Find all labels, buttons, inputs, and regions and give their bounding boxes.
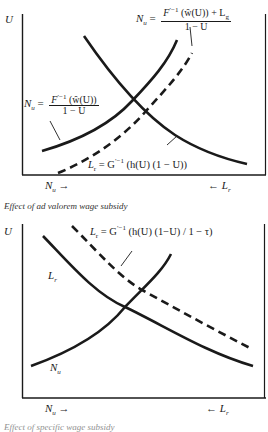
eq-equals: = xyxy=(150,12,156,24)
y-axis-label: U xyxy=(4,226,12,237)
denominator: 1 − U xyxy=(49,106,98,116)
eq-lr-shifted: Lr = G′−1 (h(U) (1−U) / 1 − τ) xyxy=(90,225,213,240)
y-axis-label: U xyxy=(5,14,13,25)
nu-curve-label: Nu xyxy=(50,362,61,376)
left-arrow-icon: ← xyxy=(208,179,222,191)
eq-lr-sup: ′−1 xyxy=(117,224,126,232)
denominator: 1 − U xyxy=(161,22,231,32)
eq-lhs-sub: u xyxy=(143,19,147,27)
fraction: F′−1 (ŵ(U)) + Lg 1 − U xyxy=(161,7,231,32)
specific-subsidy-diagram: U Lr = G′−1 (h(U) (1−U) / 1 − τ) Lr Nu N… xyxy=(0,214,268,428)
pointer-solid-label xyxy=(50,121,60,140)
specific-subsidy-plot-area xyxy=(0,214,268,428)
num-sub: g xyxy=(225,13,229,21)
ad-valorem-subsidy-diagram: U Nu = F′−1 (ŵ(U)) + Lg 1 − U Nu = F′−1 … xyxy=(0,0,268,214)
x-axis-right-label: ← Lr xyxy=(208,180,231,194)
eq-lr-body: (h(U) (1−U) / 1 − τ) xyxy=(126,226,213,237)
left-arrow-icon: ← xyxy=(206,402,220,414)
x-axis-left-label: Nu → xyxy=(45,403,70,417)
pointer-lr-shifted-label xyxy=(121,251,132,266)
numerator: F′−1 (ŵ(U)) + Lg xyxy=(161,7,231,22)
label-sub: r xyxy=(226,409,229,417)
eq-nu: Nu = F′−1 (ŵ(U)) 1 − U xyxy=(24,94,99,116)
caption-bottom: Effect of specific wage subsidy xyxy=(4,422,114,432)
right-arrow-icon: → xyxy=(56,402,70,414)
eq-nu-shifted: Nu = F′−1 (ŵ(U)) + Lg 1 − U xyxy=(136,7,231,32)
eq-equals: = xyxy=(38,97,44,109)
eq-lr-sup: ′−1 xyxy=(115,157,124,165)
pointer-lr-label xyxy=(167,136,177,145)
lr-shifted-curve xyxy=(72,226,250,348)
caption-top: Effect of ad valorem wage subsidy xyxy=(4,201,127,211)
label-sub: r xyxy=(228,186,231,194)
x-axis-right-label: ← Lr xyxy=(206,403,229,417)
label-sub: r xyxy=(54,276,57,284)
fraction: F′−1 (ŵ(U)) 1 − U xyxy=(49,94,98,116)
right-arrow-icon: → xyxy=(56,179,70,191)
eq-lhs-sub: u xyxy=(31,104,35,112)
label-sub: u xyxy=(57,368,61,376)
num-body: (ŵ(U)) xyxy=(66,94,96,105)
eq-lr-g: = G xyxy=(98,226,117,237)
lr-curve-label: Lr xyxy=(48,270,57,284)
x-axis-left-label: Nu → xyxy=(45,180,70,194)
eq-lr: Lr = G′−1 (h(U) (1 − U)) xyxy=(88,158,187,173)
eq-lr-body: (h(U) (1 − U)) xyxy=(124,159,187,170)
eq-lr-g: = G xyxy=(96,159,115,170)
num-body: (ŵ(U)) + L xyxy=(178,7,225,18)
